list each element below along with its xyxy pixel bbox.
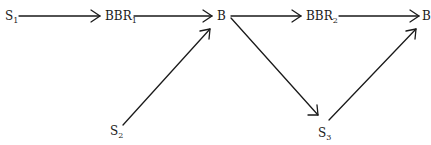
edge-s1-bbr1 [19, 10, 100, 22]
node-bbr1: BBR1 [105, 9, 137, 28]
node-b-second: B [422, 9, 431, 23]
node-s2-subscript: 2 [118, 131, 123, 140]
node-b-first: B [217, 9, 226, 23]
edge-b-s3 [231, 18, 318, 115]
node-s1-subscript: 1 [13, 16, 18, 25]
node-bbr1-label: BBR [105, 9, 132, 23]
edge-bbr2-b [339, 10, 419, 22]
node-bbr2-subscript: 2 [333, 16, 338, 25]
node-b-first-label: B [217, 9, 226, 23]
edge-b-bbr2 [231, 10, 301, 22]
node-bbr1-subscript: 1 [132, 16, 137, 25]
node-b-second-label: B [422, 9, 431, 23]
edge-bbr1-b [134, 10, 212, 22]
diagram-canvas [0, 0, 431, 145]
node-s3-subscript: 3 [326, 133, 331, 142]
node-s1-label: S [5, 9, 13, 23]
node-s1: S1 [5, 9, 18, 28]
node-bbr2: BBR2 [306, 9, 338, 28]
edge-s3-b [329, 29, 416, 120]
node-s2: S2 [110, 124, 123, 143]
node-s3: S3 [318, 126, 331, 145]
node-bbr2-label: BBR [306, 9, 333, 23]
edge-s2-b [123, 29, 210, 125]
node-s2-label: S [110, 124, 118, 138]
node-s3-label: S [318, 126, 326, 140]
